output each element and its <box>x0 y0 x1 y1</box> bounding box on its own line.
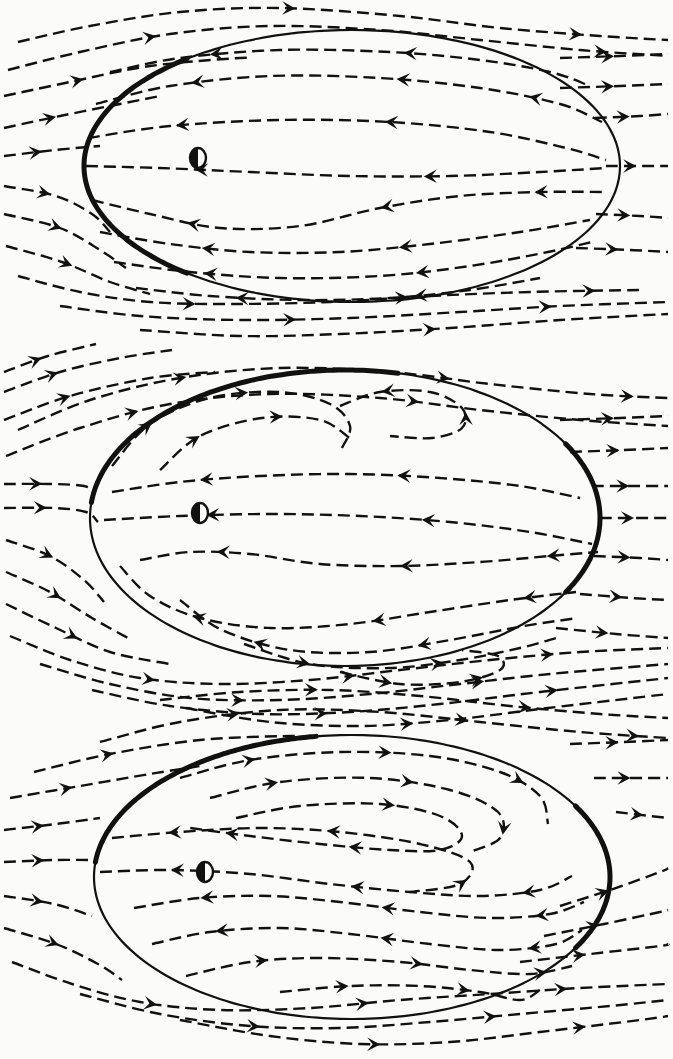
half-filled-circle-icon <box>190 148 206 168</box>
figure-canvas <box>0 0 673 1059</box>
half-filled-circle-icon <box>192 503 208 523</box>
half-filled-circle-icon <box>197 862 213 882</box>
streamline-figure: Streamline patterns of flow past three o… <box>0 0 673 1059</box>
figure-background <box>0 0 673 1059</box>
